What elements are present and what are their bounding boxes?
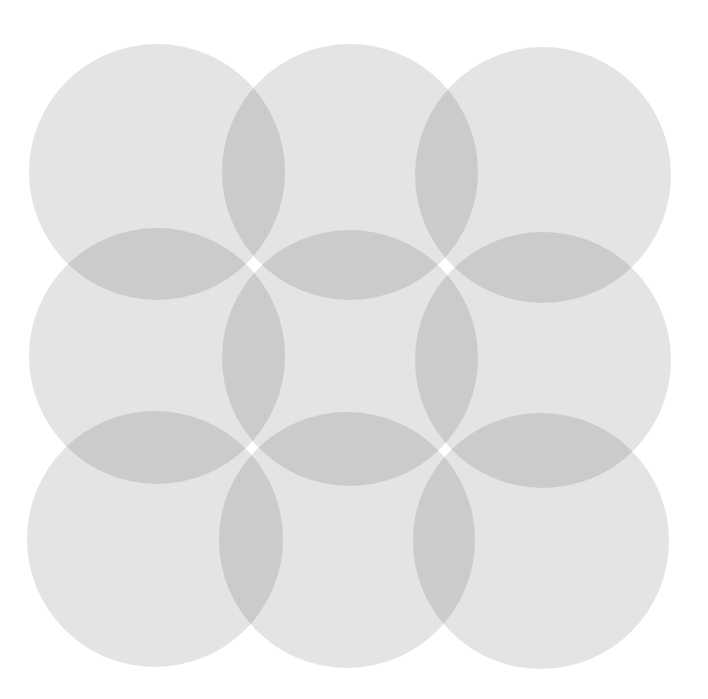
circle-r3c3: [413, 413, 669, 669]
circle-grid-diagram: [0, 0, 708, 699]
